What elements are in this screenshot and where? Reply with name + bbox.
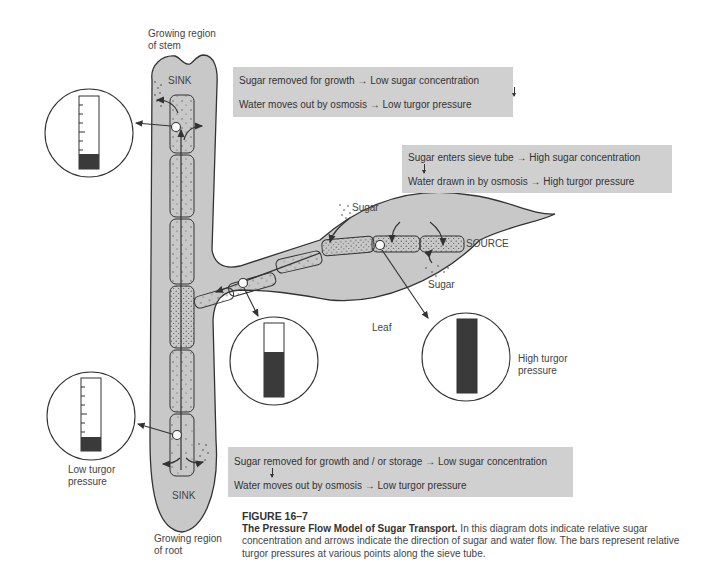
caption-title: The Pressure Flow Model of Sugar Transpo… — [242, 523, 458, 534]
sink-top-label: SINK — [168, 75, 191, 87]
gauge-junction — [230, 317, 318, 405]
gauge-root-sink — [47, 372, 135, 460]
sink-bottom-info-box: Sugar removed for growth and / or storag… — [228, 447, 573, 497]
sink-bottom-label: SINK — [172, 490, 195, 502]
sink-top-info-box: Sugar removed for growth → Low sugar con… — [233, 67, 513, 117]
stem-top-label: Growing region of stem — [148, 28, 216, 52]
caption-body: The Pressure Flow Model of Sugar Transpo… — [242, 523, 692, 561]
root-bottom-label: Growing region of root — [154, 533, 222, 557]
leaf-label: Leaf — [372, 322, 391, 334]
figure-number: FIGURE 16–7 — [242, 510, 692, 523]
source-label: SOURCE — [466, 238, 509, 250]
low-turgor-label: Low turgor pressure — [68, 464, 115, 488]
down-arrow-icon — [424, 164, 425, 173]
high-turgor-label: High turgor pressure — [518, 353, 567, 377]
source-info-box: Sugar enters sieve tube → High sugar con… — [402, 145, 672, 193]
down-arrow-icon — [272, 468, 273, 477]
sugar-top-label: Sugar — [352, 202, 379, 214]
down-arrow-icon — [514, 87, 515, 96]
figure-caption: FIGURE 16–7 The Pressure Flow Model of S… — [242, 510, 692, 560]
sugar-bottom-label: Sugar — [428, 279, 455, 291]
gauge-stem-sink — [45, 89, 133, 177]
gauge-source — [422, 313, 510, 401]
